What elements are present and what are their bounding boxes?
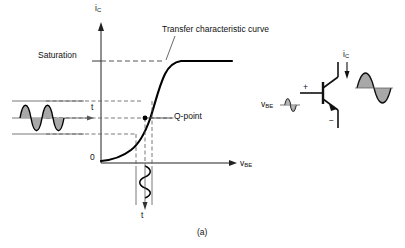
output-waveform-group [136, 166, 152, 210]
y-axis-arrowhead [98, 22, 104, 31]
vbe-source-label-sub: BE [265, 103, 273, 109]
ic-circuit-label-sub: C [345, 53, 349, 59]
origin-label: 0 [90, 152, 95, 162]
x-axis-label-sub: BE [244, 162, 252, 168]
saturation-label: Saturation [38, 50, 77, 60]
transfer-curve [101, 61, 232, 161]
collector-lead [323, 77, 338, 88]
ic-circuit-label: iC [343, 49, 349, 59]
vbe-wave-fill [285, 99, 296, 111]
q-point-label: Q-point [174, 111, 202, 121]
ic-arrowhead [345, 71, 350, 79]
transfer-characteristic-diagram [0, 0, 405, 248]
y-axis-label-sub: C [97, 7, 101, 13]
y-axis-label: iC [95, 3, 101, 13]
axes-group [98, 22, 237, 166]
input-waveform-group [12, 101, 94, 134]
figure-canvas: iC vBE 0 Saturation Transfer characteris… [0, 0, 405, 248]
input-wave-axis-arrowhead [87, 116, 94, 121]
output-time-label: t [141, 210, 143, 220]
figure-caption: (a) [197, 227, 207, 237]
x-axis-label: vBE [240, 158, 252, 168]
emitter-polarity-label: − [329, 115, 334, 125]
curve-label-leader-line [166, 36, 175, 60]
base-polarity-label: + [303, 82, 308, 92]
x-axis-arrowhead [229, 160, 237, 166]
vbe-source-label: vBE [261, 99, 273, 109]
output-time-arrowhead [143, 202, 148, 210]
input-time-label: t [91, 102, 93, 112]
q-point-marker [143, 116, 148, 121]
curve-label: Transfer characteristic curve [162, 24, 269, 34]
projection-lines-horizontal [46, 101, 175, 134]
transistor-circuit-group [280, 62, 393, 128]
